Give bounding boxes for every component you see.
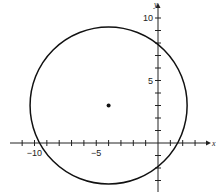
- y-tick-label: 10: [143, 13, 153, 23]
- tick-labels: −10−5105: [27, 13, 153, 158]
- y-axis-label: y: [153, 0, 158, 9]
- x-tick-label: −5: [91, 148, 101, 158]
- center-point: [107, 104, 111, 108]
- x-tick-label: −10: [27, 148, 42, 158]
- x-axis-label: x: [211, 139, 216, 148]
- circle-graph: −10−5105 x y: [0, 0, 218, 196]
- y-axis: [156, 3, 161, 192]
- y-tick-label: 5: [148, 76, 153, 86]
